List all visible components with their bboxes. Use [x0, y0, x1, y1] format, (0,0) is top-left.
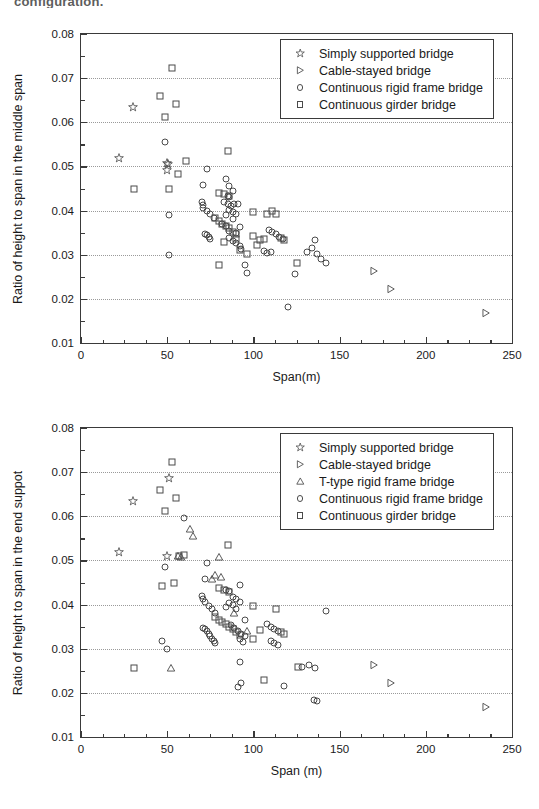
marker-circle [181, 514, 188, 521]
marker-circle [162, 139, 169, 146]
data-point [172, 100, 179, 107]
data-point [233, 235, 240, 242]
y-tick [81, 343, 87, 344]
figure-page: configuration. Ratio of height to span i… [0, 0, 539, 809]
y-tick-minor [81, 56, 85, 57]
marker-square [243, 250, 250, 257]
marker-circle [322, 260, 329, 267]
x-tick [426, 337, 427, 343]
marker-triangle-right [370, 267, 379, 276]
data-point [257, 627, 264, 634]
data-point [291, 271, 298, 278]
y-tick-minor [81, 715, 85, 716]
data-point [159, 583, 166, 590]
marker-circle [281, 682, 288, 689]
marker-circle [222, 176, 229, 183]
x-tick-minor [275, 734, 276, 738]
legend: Simply supported bridgeCable-stayed brid… [280, 39, 494, 119]
marker-circle [314, 697, 321, 704]
marker-circle [159, 637, 166, 644]
marker-circle [165, 251, 172, 258]
legend-label: Continuous girder bridge [313, 509, 456, 523]
legend-label: Continuous girder bridge [313, 98, 456, 112]
x-tick-minor [318, 734, 319, 738]
data-point [157, 487, 164, 494]
y-tick [81, 166, 87, 167]
data-point [224, 147, 231, 154]
marker-square [169, 459, 176, 466]
data-point [243, 250, 250, 257]
data-point [163, 473, 174, 484]
data-point [203, 560, 210, 567]
data-point [293, 260, 300, 267]
data-point [370, 661, 379, 670]
data-point [162, 551, 173, 562]
x-tick-minor [490, 340, 491, 344]
y-tick-label: 0.03 [52, 643, 74, 655]
legend-label: Simply supported bridge [313, 441, 454, 455]
gridline-horizontal [81, 605, 512, 606]
marker-circle [165, 212, 172, 219]
gridline-horizontal [81, 560, 512, 561]
data-point [226, 193, 233, 200]
data-point [162, 139, 169, 146]
marker-square [221, 238, 228, 245]
legend-marker [287, 101, 313, 108]
marker-square [157, 487, 164, 494]
data-point [216, 572, 225, 581]
plot-area-middle-span: 0.010.020.030.040.050.060.070.0805010015… [80, 33, 513, 344]
legend-marker [287, 477, 313, 486]
data-point [312, 664, 319, 671]
data-point [234, 200, 241, 207]
data-point [171, 580, 178, 587]
data-point [260, 677, 267, 684]
marker-square [169, 65, 176, 72]
marker-square [295, 664, 302, 671]
x-tick-minor [404, 734, 405, 738]
data-point [295, 664, 302, 671]
marker-square [215, 261, 222, 268]
marker-triangle-up [166, 664, 175, 673]
x-tick [426, 731, 427, 737]
x-tick-minor [103, 734, 104, 738]
marker-circle [236, 658, 243, 665]
y-tick [81, 693, 87, 694]
marker-square [293, 260, 300, 267]
y-tick-label: 0.04 [52, 599, 74, 611]
x-tick [512, 731, 513, 737]
x-tick-minor [146, 734, 147, 738]
data-point [214, 552, 223, 561]
data-point [224, 541, 231, 548]
data-point [166, 664, 175, 673]
x-tick-label: 200 [416, 349, 435, 361]
x-tick-label: 150 [330, 349, 349, 361]
gridline-horizontal [81, 166, 512, 167]
x-tick-minor [103, 340, 104, 344]
y-tick-label: 0.03 [52, 249, 74, 261]
marker-square [224, 541, 231, 548]
data-point [207, 235, 214, 242]
x-tick-label: 50 [161, 349, 174, 361]
y-tick-minor [81, 189, 85, 190]
data-point [222, 176, 229, 183]
x-tick-minor [469, 734, 470, 738]
data-point [176, 553, 183, 560]
data-point [236, 247, 243, 254]
data-point [165, 186, 172, 193]
marker-square [264, 210, 271, 217]
y-tick-label: 0.02 [52, 293, 74, 305]
marker-square [183, 158, 190, 165]
marker-square [162, 508, 169, 515]
y-tick [81, 516, 87, 517]
data-point [250, 209, 257, 216]
x-tick-minor [361, 340, 362, 344]
y-tick-minor [81, 494, 85, 495]
y-tick [81, 472, 87, 473]
data-point [260, 236, 267, 243]
marker-square [233, 235, 240, 242]
legend-item: Continuous girder bridge [287, 96, 483, 113]
data-point [200, 181, 207, 188]
data-point [127, 102, 138, 113]
marker-square [236, 631, 243, 638]
x-tick [81, 337, 82, 343]
